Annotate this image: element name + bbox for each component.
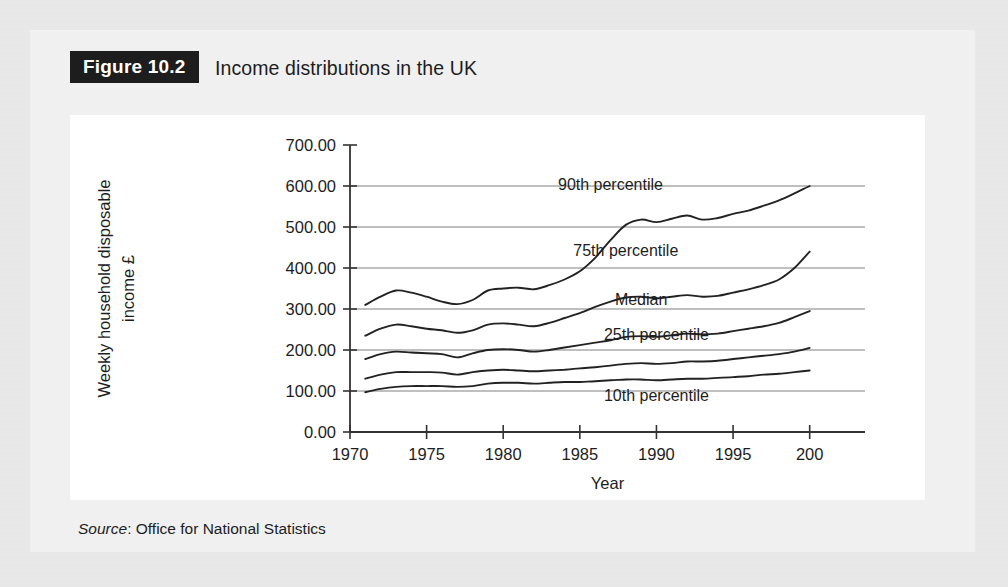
series-line-25th-percentile [365, 348, 809, 379]
x-tick-labels-group: 197019751980198519901995200 [332, 445, 824, 463]
y-tick-label: 700.00 [286, 136, 336, 154]
gridlines-group [350, 186, 865, 391]
source-text: : Office for National Statistics [127, 520, 326, 537]
x-tick-label: 1980 [485, 445, 522, 463]
page-background: Figure 10.2 Income distributions in the … [0, 0, 1008, 587]
y-axis-title-line2: income £ [119, 255, 137, 322]
figure-header: Figure 10.2 Income distributions in the … [30, 30, 975, 115]
x-tick-label: 1975 [408, 445, 445, 463]
series-annotation: 75th percentile [573, 242, 678, 259]
source-label: Source [78, 520, 127, 537]
series-annotation: 10th percentile [604, 387, 709, 404]
y-tick-labels-group: 700.00600.00500.00400.00300.00200.00100.… [286, 136, 336, 441]
x-tick-label: 1990 [638, 445, 675, 463]
y-tick-label: 200.00 [286, 341, 336, 359]
line-chart: 700.00600.00500.00400.00300.00200.00100.… [70, 115, 925, 500]
source-note: Source: Office for National Statistics [78, 520, 326, 538]
x-tick-label: 200 [796, 445, 824, 463]
y-axis-title-line1: Weekly household disposable [95, 179, 113, 397]
series-annotation: 90th percentile [558, 176, 663, 193]
x-tick-label: 1995 [715, 445, 752, 463]
figure-title: Income distributions in the UK [215, 57, 477, 80]
series-annotation: Median [615, 291, 667, 308]
y-tick-label: 0.00 [304, 423, 336, 441]
data-series-group [365, 186, 809, 392]
y-tick-label: 500.00 [286, 218, 336, 236]
chart-plot-area: 700.00600.00500.00400.00300.00200.00100.… [70, 115, 925, 500]
y-tick-label: 400.00 [286, 259, 336, 277]
series-annotation: 25th percentile [604, 326, 709, 343]
figure-panel: Figure 10.2 Income distributions in the … [30, 30, 975, 552]
x-tick-label: 1970 [332, 445, 369, 463]
chart-canvas: 700.00600.00500.00400.00300.00200.00100.… [70, 115, 925, 500]
y-tick-label: 100.00 [286, 382, 336, 400]
series-annotations-group: 90th percentile75th percentileMedian25th… [558, 176, 709, 404]
figure-number-badge: Figure 10.2 [70, 51, 199, 83]
x-axis-title: Year [591, 474, 625, 492]
y-tick-label: 300.00 [286, 300, 336, 318]
y-tick-label: 600.00 [286, 177, 336, 195]
x-tick-label: 1985 [561, 445, 598, 463]
series-line-10th-percentile [365, 371, 809, 393]
series-line-median [365, 311, 809, 359]
